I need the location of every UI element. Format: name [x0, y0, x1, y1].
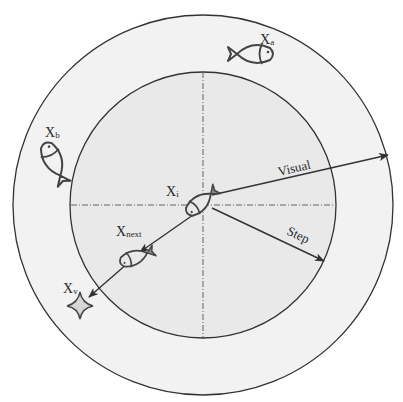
diagram-canvas: Xa Xb Xi Xnext Xv Visual Step	[0, 0, 403, 402]
fish-perception-diagram: Xa Xb Xi Xnext Xv Visual Step	[0, 0, 403, 402]
